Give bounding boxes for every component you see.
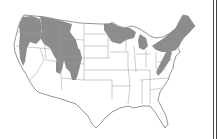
frame-border-outer: [216, 0, 217, 139]
frame-border-inner: [213, 0, 214, 139]
region-northeast: [152, 15, 195, 52]
us-map: [0, 0, 218, 139]
